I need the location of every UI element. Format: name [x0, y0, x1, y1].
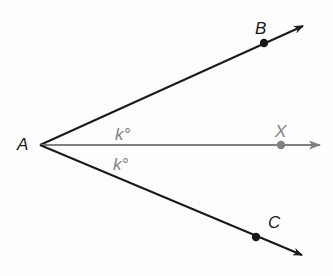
point-label-C: C	[268, 213, 281, 232]
angle-bisector-diagram: BXCk°k° A	[0, 0, 333, 276]
diagram-canvas: BXCk°k°	[0, 0, 333, 276]
point-B	[260, 39, 268, 47]
point-label-X: X	[274, 122, 287, 141]
point-X	[277, 141, 285, 149]
vertex-label-A: A	[17, 135, 28, 155]
point-label-B: B	[255, 19, 266, 38]
angle-label-1: k°	[115, 125, 131, 144]
angle-label-2: k°	[113, 155, 129, 174]
ray-AC	[40, 145, 302, 255]
point-C	[252, 233, 260, 241]
